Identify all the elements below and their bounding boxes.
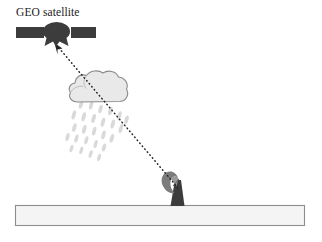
diagram-svg (0, 0, 322, 242)
geo-satellite (16, 22, 96, 47)
ground-surface (16, 206, 305, 226)
rain-drops (62, 97, 131, 166)
figure-canvas: GEO satellite (0, 0, 322, 242)
rain-cloud (69, 71, 127, 102)
geo-satellite-label: GEO satellite (16, 5, 80, 20)
satellite-solar-panel-right (71, 27, 96, 38)
ground-station-antenna (162, 171, 185, 206)
satellite-solar-panel-left (16, 27, 44, 38)
